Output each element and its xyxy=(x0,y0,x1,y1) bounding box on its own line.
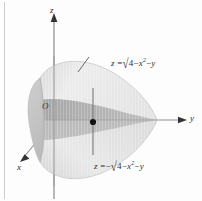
y-axis-arrowhead xyxy=(178,117,187,123)
x-axis-arrowhead xyxy=(20,154,30,162)
y-axis-label: y xyxy=(190,114,194,123)
upper-eq-radicand: 4−x2−y xyxy=(129,58,156,68)
lower-eq-radical-sign: √ xyxy=(111,160,117,174)
lower-eq-term-c: y xyxy=(140,161,144,171)
origin-label: O xyxy=(42,102,49,111)
x-axis-label: x xyxy=(17,163,21,172)
math-figure-paraboloid: z y x O z =√4−x2−y z =−√4−x2−y xyxy=(0,0,202,201)
upper-eq-lhs: z xyxy=(111,58,115,68)
lower-equation-label: z =−√4−x2−y xyxy=(94,160,144,171)
lower-eq-lhs: z xyxy=(94,161,98,171)
upper-eq-term-c: y xyxy=(151,58,155,68)
lower-eq-radicand: 4−x2−y xyxy=(117,161,144,171)
z-axis-label: z xyxy=(50,6,54,15)
upper-equation-label: z =√4−x2−y xyxy=(111,57,156,68)
upper-eq-radical-sign: √ xyxy=(122,57,128,71)
interior-point-marker xyxy=(90,119,96,125)
